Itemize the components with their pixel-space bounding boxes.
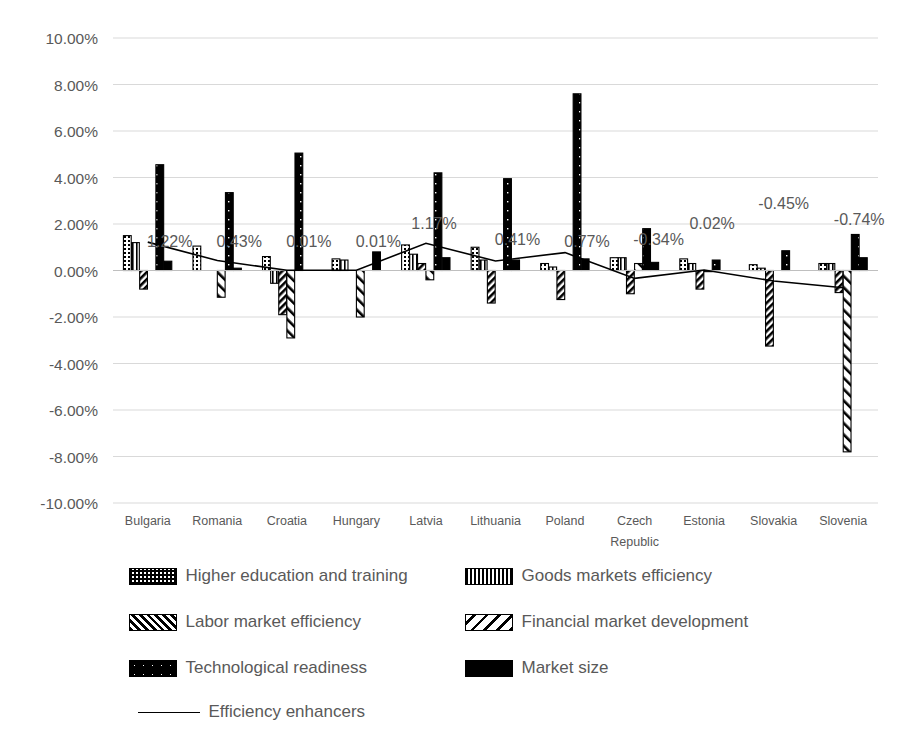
y-axis-tick-label: 6.00% [54, 123, 98, 140]
x-axis-tick-label: Republic [610, 535, 659, 549]
bar [504, 179, 512, 271]
bar [827, 264, 835, 271]
data-label: 0.01% [286, 233, 331, 250]
bar [271, 271, 279, 284]
pattern-swatch-dots-grid-icon [129, 568, 177, 585]
pattern-swatch-solid-black-icon [465, 660, 513, 677]
y-axis-tick-label: -6.00% [49, 402, 98, 419]
bar [843, 271, 851, 452]
data-label: -0.45% [758, 195, 809, 212]
data-label: -0.74% [834, 211, 885, 228]
x-axis-tick-label: Croatia [267, 514, 307, 528]
pattern-swatch-diagonal-wide-icon [465, 614, 513, 631]
x-axis-tick-label: Bulgaria [125, 514, 171, 528]
legend-item-labor-market: Labor market efficiency [129, 612, 465, 632]
x-axis-tick-label: Romania [192, 514, 242, 528]
y-axis-tick-label: -4.00% [49, 356, 98, 373]
bar [712, 260, 720, 270]
bar [835, 271, 843, 293]
bar [279, 271, 287, 315]
bar [140, 271, 148, 290]
chart-container: 10.00%8.00%6.00%4.00%2.00%0.00%-2.00%-4.… [0, 0, 903, 746]
legend-label: Market size [522, 658, 609, 678]
bar [479, 260, 487, 270]
chart-y-axis-labels: 10.00%8.00%6.00%4.00%2.00%0.00%-2.00%-4.… [40, 30, 98, 512]
chart-plot-area: 10.00%8.00%6.00%4.00%2.00%0.00%-2.00%-4.… [0, 0, 903, 566]
x-axis-tick-label: Poland [546, 514, 585, 528]
pattern-swatch-diagonal-dense-icon [129, 614, 177, 631]
bar [287, 271, 295, 338]
bar [541, 264, 549, 271]
data-label: 0.41% [495, 231, 540, 248]
bar [688, 264, 696, 271]
bar [851, 234, 859, 270]
y-axis-tick-label: 4.00% [54, 170, 98, 187]
bar [123, 236, 131, 271]
x-axis-tick-label: Lithuania [470, 514, 521, 528]
x-axis-tick-label: Latvia [409, 514, 442, 528]
bar [426, 271, 434, 280]
bar [471, 247, 479, 270]
bar [418, 264, 426, 271]
data-label: -0.34% [633, 231, 684, 248]
bar [651, 262, 659, 270]
bar [749, 265, 757, 271]
data-label: 0.77% [564, 233, 609, 250]
bar [557, 271, 565, 300]
x-axis-tick-label: Slovenia [819, 514, 867, 528]
pattern-swatch-vertical-lines-icon [465, 568, 513, 585]
bar [782, 251, 790, 271]
bar [442, 258, 450, 271]
bar [402, 245, 410, 271]
legend-item-efficiency-enhancers: Efficiency enhancers [120, 702, 784, 722]
bar [410, 254, 418, 270]
bar [549, 267, 557, 270]
y-axis-tick-label: 10.00% [45, 30, 98, 47]
legend-item-higher-education: Higher education and training [129, 566, 465, 586]
bar [618, 258, 626, 271]
legend-label: Efficiency enhancers [209, 702, 366, 722]
bar [859, 258, 867, 271]
bar [626, 271, 634, 294]
data-label: 1.22% [147, 233, 192, 250]
bar [164, 261, 172, 270]
data-label: 1.17% [411, 215, 456, 232]
legend-label: Goods markets efficiency [522, 566, 713, 586]
y-axis-tick-label: -10.00% [40, 495, 98, 512]
y-axis-tick-label: -2.00% [49, 309, 98, 326]
pattern-swatch-black-dots-icon [129, 660, 177, 677]
y-axis-tick-label: -8.00% [49, 449, 98, 466]
y-axis-tick-label: 0.00% [54, 263, 98, 280]
legend-item-technological-readiness: Technological readiness [129, 658, 465, 678]
chart-x-axis-labels: BulgariaRomaniaCroatiaHungaryLatviaLithu… [125, 514, 867, 549]
legend-item-market-size: Market size [465, 658, 775, 678]
line-swatch-icon [138, 705, 200, 720]
y-axis-tick-label: 2.00% [54, 216, 98, 233]
legend-item-financial-market: Financial market development [465, 612, 775, 632]
chart-data-labels: 1.22%0.43%0.01%0.01%1.17%0.41%0.77%-0.34… [147, 195, 884, 250]
legend-label: Higher education and training [186, 566, 408, 586]
bar [193, 246, 201, 270]
chart-bars [123, 94, 867, 452]
legend-item-goods-markets: Goods markets efficiency [465, 566, 775, 586]
legend-label: Financial market development [522, 612, 749, 632]
chart-legend: Higher education and training Goods mark… [0, 566, 903, 746]
bar [217, 271, 225, 298]
bar [696, 271, 704, 290]
data-label: 0.02% [689, 215, 734, 232]
bar [340, 260, 348, 270]
bar [635, 264, 643, 271]
legend-label: Technological readiness [186, 658, 367, 678]
x-axis-tick-label: Estonia [683, 514, 725, 528]
y-axis-tick-label: 8.00% [54, 77, 98, 94]
bar [156, 165, 164, 271]
x-axis-tick-label: Hungary [333, 514, 381, 528]
bar [487, 271, 495, 304]
x-axis-tick-label: Czech [617, 514, 652, 528]
x-axis-tick-label: Slovakia [750, 514, 797, 528]
bar [295, 153, 303, 270]
bar [512, 260, 520, 270]
data-label: 0.01% [356, 233, 401, 250]
data-label: 0.43% [217, 233, 262, 250]
bar [766, 271, 774, 347]
